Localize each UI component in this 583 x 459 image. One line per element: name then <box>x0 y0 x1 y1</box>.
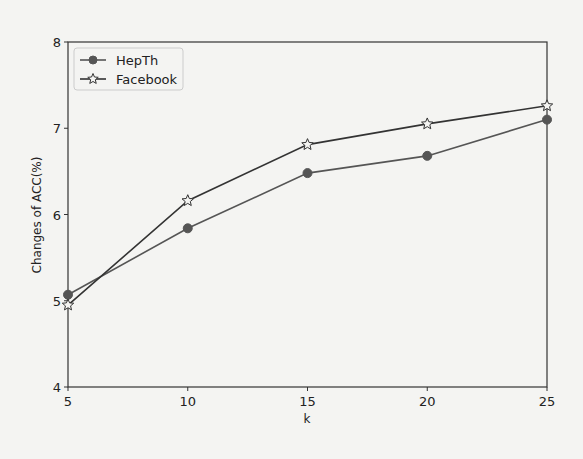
circle-marker <box>89 56 97 64</box>
y-tick-label: 6 <box>53 208 61 223</box>
series-line <box>68 106 547 305</box>
series-lines <box>62 100 552 310</box>
x-tick-label: 5 <box>64 394 72 409</box>
x-tick-label: 25 <box>539 394 556 409</box>
legend: HepThFacebook <box>74 48 183 90</box>
y-tick-label: 8 <box>53 35 61 50</box>
legend-label: HepTh <box>116 53 158 68</box>
legend-label: Facebook <box>116 72 178 87</box>
x-axis-ticks: 510152025 <box>64 387 555 409</box>
star-marker <box>302 139 313 150</box>
y-tick-label: 4 <box>53 380 61 395</box>
axes-frame <box>68 42 547 387</box>
x-tick-label: 15 <box>299 394 316 409</box>
series-facebook <box>62 100 552 310</box>
x-axis-label: k <box>304 412 311 426</box>
circle-marker <box>183 224 192 233</box>
star-marker <box>422 118 433 129</box>
y-axis-label: Changes of ACC(%) <box>30 157 44 274</box>
line-chart: 45678 510152025 k Changes of ACC(%) HepT… <box>0 0 583 459</box>
x-tick-label: 10 <box>179 394 196 409</box>
y-tick-label: 7 <box>53 121 61 136</box>
circle-marker <box>423 151 432 160</box>
x-tick-label: 20 <box>419 394 436 409</box>
y-tick-label: 5 <box>53 294 61 309</box>
y-axis-ticks: 45678 <box>53 35 68 395</box>
circle-marker <box>303 169 312 178</box>
star-marker <box>541 100 552 111</box>
circle-marker <box>543 115 552 124</box>
plot-area <box>68 42 547 387</box>
